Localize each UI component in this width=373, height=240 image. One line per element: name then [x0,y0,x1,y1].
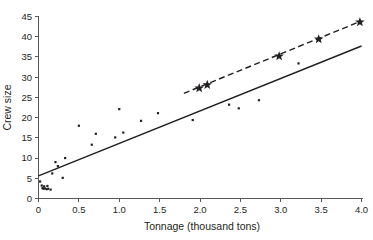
star-marker [314,34,324,43]
data-point-marker [41,184,43,186]
data-point-marker [78,125,80,127]
y-axis-title: Crew size [1,84,13,130]
data-point-marker [54,161,56,163]
star-marker [203,80,213,89]
y-tick-label: 30 [21,72,32,83]
data-point-marker [238,107,240,109]
data-point-marker [95,133,97,135]
x-tick-label: 0 [36,204,41,215]
data-point-marker [118,108,120,110]
x-tick-label: 4.0 [355,204,368,215]
data-point-marker [91,144,93,146]
data-point-marker [39,180,41,182]
data-point-marker [51,172,53,174]
x-tick-label: 0.5 [72,204,85,215]
y-tick-label: 15 [21,132,32,143]
data-point-marker [43,185,45,187]
x-tick-label: 2.0 [193,204,206,215]
data-point-marker [122,131,124,133]
data-point-marker [114,136,116,138]
y-tick-label: 25 [21,92,32,103]
data-point-marker [140,120,142,122]
y-axis-ticks: 051015202530354045 [21,11,38,204]
data-point-marker [228,104,230,106]
data-points [39,62,300,190]
data-point-marker [297,62,299,64]
axes [39,16,363,199]
y-tick-label: 0 [27,193,32,204]
x-tick-label: 3.5 [315,204,328,215]
y-tick-label: 45 [21,11,32,22]
data-point-marker [47,188,49,190]
x-tick-label: 1.5 [153,204,166,215]
data-point-marker [57,165,59,167]
data-point-marker [64,157,66,159]
y-tick-label: 35 [21,51,32,62]
star-marker [355,17,365,26]
data-point-marker [192,119,194,121]
x-tick-label: 3.0 [274,204,287,215]
y-tick-label: 40 [21,31,32,42]
data-point-marker [157,112,159,114]
x-tick-label: 2.5 [234,204,247,215]
x-axis-ticks: 00.51.01.52.02.53.03.54.0 [36,199,368,215]
x-tick-label: 1.0 [113,204,126,215]
overall-regression [39,46,362,176]
data-point-marker [258,99,260,101]
star-marker [194,83,204,92]
data-point-marker [46,185,48,187]
y-tick-label: 20 [21,112,32,123]
data-point-marker [50,189,52,191]
y-tick-label: 5 [27,173,32,184]
data-point-marker [62,177,64,179]
scatter-plot-figure: 051015202530354045 00.51.01.52.02.53.03.… [0,0,373,240]
y-tick-label: 10 [21,152,32,163]
chart-canvas: 051015202530354045 00.51.01.52.02.53.03.… [0,0,373,240]
fit-lines [39,21,362,176]
x-axis-title: Tonnage (thousand tons) [144,220,260,232]
